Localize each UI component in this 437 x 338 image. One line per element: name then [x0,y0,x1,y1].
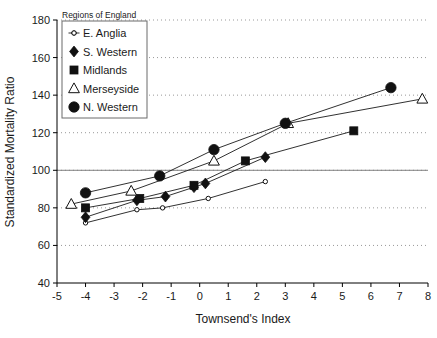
datapoint-e-anglia-1 [135,208,139,212]
x-tick-label-2: 2 [254,290,260,302]
x-tick-label-8: 8 [425,290,431,302]
x-tick-label-0: 0 [197,290,203,302]
datapoint-midlands-3 [241,157,249,165]
datapoint-e-anglia-4 [263,179,267,183]
datapoint-s-western-4 [201,178,210,189]
datapoint-merseyside-4 [417,93,428,103]
y-axis-title: Standardized Mortality Ratio [3,76,17,227]
datapoint-e-anglia-3 [206,196,210,200]
y-tick-label-100: 100 [32,164,50,176]
x-tick-label--4: -4 [81,290,91,302]
datapoint-n-western-1 [155,171,165,181]
x-tick-label-4: 4 [311,290,317,302]
legend-label-e-anglia: E. Anglia [83,27,127,39]
datapoint-n-western-2 [209,144,219,154]
x-tick-label--2: -2 [138,290,148,302]
y-tick-label-180: 180 [32,14,50,26]
x-axis-title: Townsend's Index [195,312,290,326]
x-tick-label-7: 7 [396,290,402,302]
legend-marker-n-western [69,102,79,112]
datapoint-e-anglia-2 [160,206,164,210]
legend-marker-dot-e-anglia [72,31,76,35]
chart-container: 406080100120140160180-5-4-3-2-1012345678… [0,0,437,338]
series-line-e-anglia [86,182,266,223]
y-tick-label-60: 60 [38,239,50,251]
datapoint-n-western-4 [386,82,396,92]
datapoint-midlands-2 [190,181,198,189]
y-tick-label-120: 120 [32,127,50,139]
datapoint-s-western-0 [81,212,90,223]
y-tick-label-40: 40 [38,277,50,289]
y-tick-label-160: 160 [32,52,50,64]
datapoint-midlands-1 [136,194,144,202]
x-tick-label-1: 1 [225,290,231,302]
legend-title: Regions of England [62,10,136,20]
legend-label-merseyside: Merseyside [83,83,139,95]
legend-label-s-western: S. Western [83,46,137,58]
datapoint-merseyside-1 [126,185,137,195]
datapoint-n-western-3 [280,118,290,128]
legend-label-n-western: N. Western [83,101,138,113]
x-tick-label-3: 3 [282,290,288,302]
y-tick-label-140: 140 [32,89,50,101]
x-tick-label--5: -5 [52,290,62,302]
x-tick-label-6: 6 [368,290,374,302]
x-tick-label-5: 5 [339,290,345,302]
datapoint-merseyside-2 [209,155,220,165]
legend-marker-midlands [70,66,78,74]
series-line-midlands [86,131,354,208]
series-line-s-western [86,157,266,217]
datapoint-midlands-0 [82,204,90,212]
datapoint-n-western-0 [80,188,90,198]
scatter-line-chart: 406080100120140160180-5-4-3-2-1012345678… [0,0,437,338]
y-tick-label-80: 80 [38,202,50,214]
legend-label-midlands: Midlands [83,64,128,76]
x-tick-label--1: -1 [166,290,176,302]
datapoint-s-western-5 [261,152,270,163]
datapoint-midlands-4 [350,127,358,135]
x-tick-label--3: -3 [109,290,119,302]
